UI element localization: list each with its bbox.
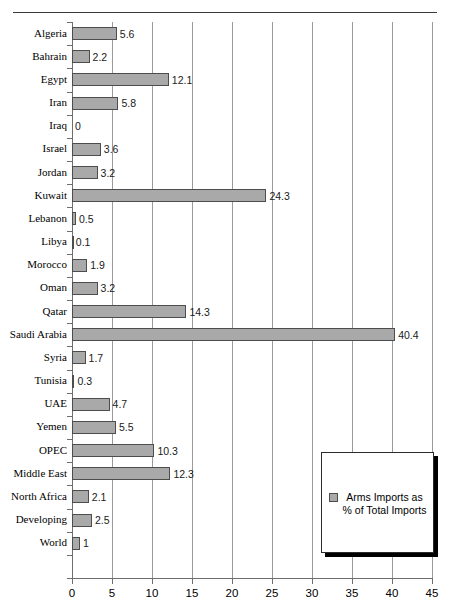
- x-tick: [432, 578, 433, 584]
- y-tick: [67, 485, 72, 486]
- y-tick: [67, 393, 72, 394]
- bar: [72, 73, 169, 86]
- x-tick-label: 40: [386, 588, 399, 600]
- bar-value-label: 2.2: [93, 52, 108, 63]
- bar-value-label: 12.3: [173, 469, 193, 480]
- bar: [72, 421, 116, 434]
- x-tick: [272, 578, 273, 584]
- x-tick: [152, 578, 153, 584]
- bar-value-label: 0: [75, 121, 81, 132]
- bar-value-label: 5.6: [120, 29, 135, 40]
- y-tick: [67, 45, 72, 46]
- x-tick: [352, 578, 353, 584]
- category-label: Iran: [0, 97, 72, 108]
- category-label: Israel: [0, 143, 72, 154]
- y-tick: [67, 68, 72, 69]
- x-tick-label: 0: [69, 588, 75, 600]
- bar-value-label: 4.7: [113, 399, 128, 410]
- bar: [72, 305, 186, 318]
- category-label: Saudi Arabia: [0, 329, 72, 340]
- bar-value-label: 3.6: [104, 144, 119, 155]
- x-tick-label: 5: [109, 588, 115, 600]
- bar-value-label: 3.2: [101, 168, 116, 179]
- top-divider-rule: [13, 12, 437, 13]
- gridline: [192, 22, 193, 578]
- x-tick-label: 35: [346, 588, 359, 600]
- category-label: Yemen: [0, 421, 72, 432]
- bar: [72, 537, 80, 550]
- category-label: Jordan: [0, 167, 72, 178]
- category-label: World: [0, 537, 72, 548]
- gridline: [312, 22, 313, 578]
- category-label: OPEC: [0, 445, 72, 456]
- bar: [72, 27, 117, 40]
- legend-label: Arms Imports as % of Total Imports: [342, 491, 427, 517]
- gridline: [232, 22, 233, 578]
- bar-value-label: 0.1: [76, 237, 91, 248]
- bar: [72, 514, 92, 527]
- category-label: Tunisia: [0, 375, 72, 386]
- category-label: UAE: [0, 398, 72, 409]
- bar: [72, 143, 101, 156]
- gridline: [152, 22, 153, 578]
- bar: [72, 375, 74, 388]
- arms-imports-bar-chart: 051015202530354045 AlgeriaBahrainEgyptIr…: [0, 0, 450, 616]
- x-tick: [232, 578, 233, 584]
- bar: [72, 97, 118, 110]
- bar-value-label: 0.3: [77, 376, 92, 387]
- bar: [72, 282, 98, 295]
- bar-value-label: 14.3: [189, 307, 209, 318]
- category-label: Oman: [0, 282, 72, 293]
- x-tick-label: 20: [226, 588, 239, 600]
- bar: [72, 467, 170, 480]
- y-tick: [67, 370, 72, 371]
- x-tick: [112, 578, 113, 584]
- x-tick-label: 10: [146, 588, 159, 600]
- y-tick: [67, 323, 72, 324]
- category-label: Middle East: [0, 468, 72, 479]
- y-tick: [67, 555, 72, 556]
- category-label: Bahrain: [0, 51, 72, 62]
- category-label: Syria: [0, 352, 72, 363]
- category-label: Libya: [0, 236, 72, 247]
- category-label: Algeria: [0, 28, 72, 39]
- y-tick: [67, 416, 72, 417]
- y-tick: [67, 161, 72, 162]
- bar-value-label: 1: [83, 538, 89, 549]
- y-tick: [67, 92, 72, 93]
- bar-value-label: 2.1: [92, 492, 107, 503]
- y-tick: [67, 207, 72, 208]
- bar-value-label: 40.4: [398, 330, 418, 341]
- bar: [72, 50, 90, 63]
- x-tick: [192, 578, 193, 584]
- bar: [72, 351, 86, 364]
- y-tick: [67, 22, 72, 23]
- category-label: Qatar: [0, 306, 72, 317]
- y-tick: [67, 578, 72, 579]
- category-label: Lebanon: [0, 213, 72, 224]
- bar: [72, 328, 395, 341]
- bar: [72, 212, 76, 225]
- y-tick: [67, 115, 72, 116]
- x-tick: [312, 578, 313, 584]
- category-label: Developing: [0, 514, 72, 525]
- bar-value-label: 3.2: [101, 283, 116, 294]
- category-label: Iraq: [0, 120, 72, 131]
- y-tick: [67, 509, 72, 510]
- x-tick-label: 30: [306, 588, 319, 600]
- x-tick-label: 15: [186, 588, 199, 600]
- bar: [72, 166, 98, 179]
- bar-value-label: 0.5: [79, 214, 94, 225]
- bar: [72, 490, 89, 503]
- category-label: North Africa: [0, 491, 72, 502]
- y-tick: [67, 277, 72, 278]
- bar-value-label: 24.3: [269, 191, 289, 202]
- category-label: Egypt: [0, 74, 72, 85]
- y-tick: [67, 346, 72, 347]
- y-tick: [67, 300, 72, 301]
- bar-value-label: 5.8: [121, 98, 136, 109]
- bar: [72, 259, 87, 272]
- y-tick: [67, 254, 72, 255]
- bar: [72, 444, 154, 457]
- x-axis-line: [72, 578, 432, 579]
